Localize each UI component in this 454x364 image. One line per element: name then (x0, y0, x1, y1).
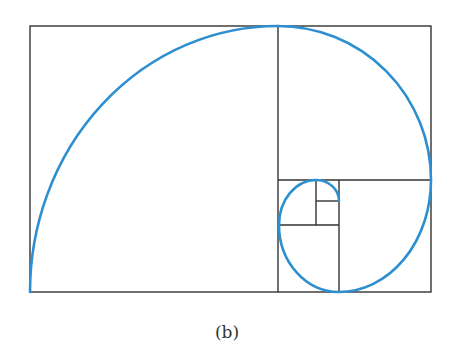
golden-spiral-diagram (0, 0, 454, 364)
figure-caption: (b) (0, 322, 454, 342)
golden-spiral-curve (30, 26, 431, 292)
outer-golden-rectangle (30, 26, 431, 292)
